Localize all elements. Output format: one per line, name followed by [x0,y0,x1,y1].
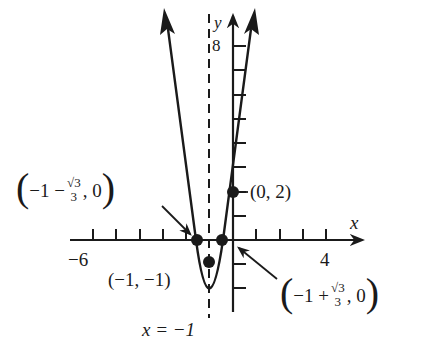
x-axis-label: x [350,213,358,232]
point-root-right [216,234,228,246]
root-right-fraction: √3 3 [331,281,345,308]
x-axis [70,229,362,240]
x-tick-label-neg6: −6 [68,250,88,269]
y-axis [233,16,246,312]
y-tick-label-8: 8 [212,37,221,54]
asymptote-label: x = −1 [142,320,195,339]
point-y-intercept [227,186,239,198]
label-root-left: ( −1 − √3 3 , 0 ) [16,170,115,210]
point-vertex [203,256,215,268]
point-root-left [191,234,203,246]
y-axis-label: y [214,14,222,31]
label-root-right: ( −1 + √3 3 , 0 ) [280,275,379,315]
root-left-suffix: , 0 [83,181,102,200]
root-right-prefix: −1 + [293,286,329,305]
label-y-intercept: (0, 2) [250,182,291,201]
x-tick-label-4: 4 [320,250,330,269]
root-left-prefix: −1 − [29,181,65,200]
root-right-suffix: , 0 [347,286,366,305]
leader-root-left [162,206,190,234]
root-left-fraction: √3 3 [67,176,81,203]
label-vertex: (−1, −1) [108,270,171,289]
